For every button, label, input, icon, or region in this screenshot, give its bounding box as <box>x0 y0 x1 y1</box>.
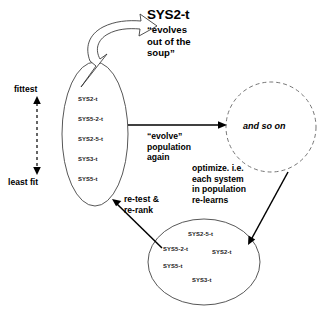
emergence-block-arrow <box>81 14 157 87</box>
fitness-axis-top-label: fittest <box>14 84 37 94</box>
optimize-arrow-head <box>248 236 255 245</box>
optimize-edge-label: optimize. i.e. each system in population… <box>192 163 246 206</box>
diagram-title: SYS2-t <box>147 7 189 23</box>
optimized-item: SYS2-t <box>212 249 232 256</box>
population-item: SYS2-t <box>78 96 98 103</box>
retest-arrow-head <box>112 199 121 206</box>
fitness-axis-arrow-down <box>33 167 41 175</box>
evolve-edge-label: “evolve” population again <box>147 131 191 163</box>
retest-edge-label: re-test & re-rank <box>124 194 159 215</box>
population-item: SYS2-5-t <box>78 136 103 143</box>
population-ellipse-shape <box>62 62 128 206</box>
population-item: SYS5-2-t <box>78 116 103 123</box>
optimized-item: SYS2-5-t <box>188 231 213 238</box>
next-generation-label: and so on <box>243 121 286 132</box>
evolution-cycle-diagram: SYS2-t “evolves out of the soup” fittest… <box>0 0 325 314</box>
optimized-item: SYS5-t <box>163 263 183 270</box>
optimize-arrow-line <box>252 172 288 238</box>
optimized-item: SYS5-2-t <box>163 246 188 253</box>
fitness-axis-arrow-up <box>33 96 41 104</box>
optimized-item: SYS3-t <box>192 277 212 284</box>
population-item: SYS3-t <box>78 156 98 163</box>
diagram-title-caption: “evolves out of the soup” <box>147 24 191 59</box>
fitness-axis-bottom-label: least fit <box>8 177 38 187</box>
population-item: SYS5-t <box>78 176 98 183</box>
